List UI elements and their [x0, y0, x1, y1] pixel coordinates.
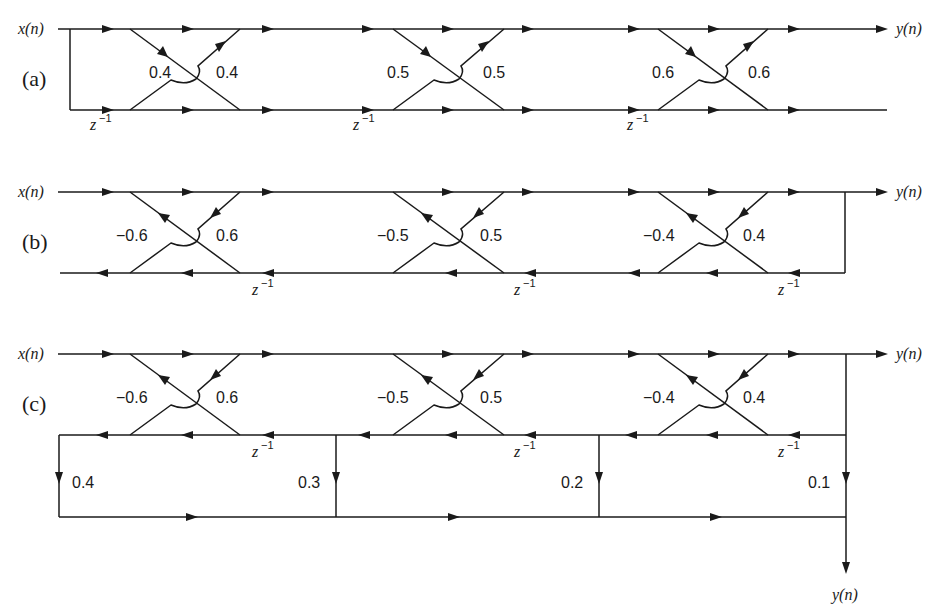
svg-text:0.4: 0.4 [72, 474, 94, 491]
svg-text:0.4: 0.4 [743, 389, 765, 406]
lattice-stage-1: −0.6 0.6 [116, 354, 240, 435]
svg-text:0.5: 0.5 [483, 64, 505, 81]
svg-text:−0.5: −0.5 [377, 227, 409, 244]
flow-arrows-right [102, 25, 800, 114]
output-label: y(n) [894, 20, 922, 38]
section-label-a: (a) [22, 66, 46, 91]
lattice-stage-1: 0.4 0.4 [130, 29, 240, 110]
svg-text:0.6: 0.6 [216, 227, 238, 244]
svg-text:0.5: 0.5 [387, 64, 409, 81]
svg-text:−1: −1 [261, 439, 274, 451]
section-label-c: (c) [22, 391, 46, 416]
section-a-fir-lattice: x(n) (a) y(n) [17, 20, 922, 133]
section-c-lattice-ladder: x(n) (c) y(n) y(n) [17, 345, 922, 604]
delay-labels: z−1 z−1 z−1 [251, 439, 800, 460]
svg-text:0.6: 0.6 [748, 64, 770, 81]
input-label: x(n) [17, 345, 44, 363]
lattice-stage-2: −0.5 0.5 [377, 192, 504, 273]
svg-text:z: z [352, 116, 360, 133]
svg-text:0.3: 0.3 [298, 474, 320, 491]
svg-text:−0.6: −0.6 [116, 227, 148, 244]
ladder-output-label: y(n) [830, 586, 858, 604]
svg-text:0.4: 0.4 [149, 64, 171, 81]
svg-text:z: z [89, 116, 97, 133]
svg-text:−0.4: −0.4 [643, 389, 675, 406]
svg-text:z: z [251, 281, 259, 298]
svg-text:−1: −1 [787, 277, 800, 289]
lattice-stage-3: −0.4 0.4 [643, 354, 768, 435]
svg-text:z: z [777, 443, 785, 460]
section-label-b: (b) [22, 229, 48, 254]
lattice-stage-3: −0.4 0.4 [643, 192, 768, 273]
ladder-output-arrow-icon [842, 562, 850, 574]
svg-text:−0.6: −0.6 [116, 389, 148, 406]
svg-text:z: z [513, 443, 521, 460]
svg-text:0.4: 0.4 [216, 64, 238, 81]
svg-text:z: z [777, 281, 785, 298]
lattice-filter-diagram: x(n) (a) y(n) [0, 0, 941, 608]
lattice-stage-1: −0.6 0.6 [116, 192, 240, 273]
section-b-all-pole-lattice: x(n) (b) y(n) [17, 183, 922, 298]
lattice-stage-3: 0.6 0.6 [652, 29, 770, 110]
output-arrow-icon [876, 350, 888, 358]
svg-text:−1: −1 [362, 112, 375, 124]
svg-text:−0.5: −0.5 [377, 389, 409, 406]
svg-text:0.1: 0.1 [808, 474, 830, 491]
svg-text:−1: −1 [99, 112, 112, 124]
delay-labels: z−1 z−1 z−1 [251, 277, 800, 298]
output-arrow-icon [876, 188, 888, 196]
output-label: y(n) [894, 345, 922, 363]
svg-text:0.5: 0.5 [480, 389, 502, 406]
lattice-stage-2: 0.5 0.5 [387, 29, 505, 110]
svg-text:0.2: 0.2 [561, 474, 583, 491]
svg-text:z: z [626, 116, 634, 133]
svg-text:0.6: 0.6 [652, 64, 674, 81]
svg-text:−1: −1 [261, 277, 274, 289]
svg-text:−1: −1 [523, 277, 536, 289]
svg-text:0.4: 0.4 [743, 227, 765, 244]
svg-text:z: z [251, 443, 259, 460]
output-label: y(n) [894, 183, 922, 201]
svg-text:0.5: 0.5 [480, 227, 502, 244]
delay-labels: z−1 z−1 z−1 [89, 112, 649, 133]
svg-text:0.6: 0.6 [216, 389, 238, 406]
output-arrow-icon [876, 25, 888, 33]
svg-text:−0.4: −0.4 [643, 227, 675, 244]
svg-text:z: z [513, 281, 521, 298]
input-label: x(n) [17, 20, 44, 38]
lattice-stage-2: −0.5 0.5 [377, 354, 504, 435]
input-label: x(n) [17, 183, 44, 201]
svg-text:−1: −1 [787, 439, 800, 451]
svg-text:−1: −1 [636, 112, 649, 124]
ladder-coefficients: 0.4 0.3 0.2 0.1 [72, 474, 830, 491]
svg-text:−1: −1 [523, 439, 536, 451]
